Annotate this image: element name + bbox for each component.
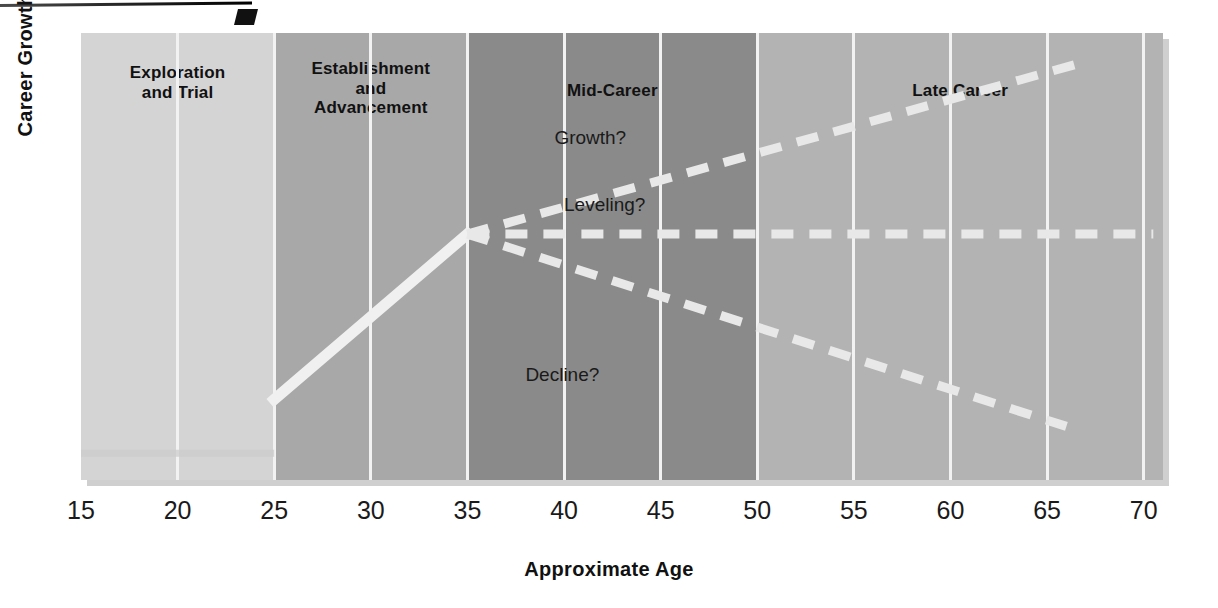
- plot-area: Late CareerMid-CareerEstablishmentandAdv…: [81, 33, 1163, 480]
- annotation-leveling: Leveling?: [564, 194, 645, 216]
- x-tick-15: 15: [67, 496, 95, 525]
- x-tick-60: 60: [937, 496, 965, 525]
- x-tick-45: 45: [647, 496, 675, 525]
- x-tick-20: 20: [164, 496, 192, 525]
- x-tick-40: 40: [550, 496, 578, 525]
- series-decline: [467, 234, 1066, 426]
- series-lines: [81, 33, 1163, 480]
- x-tick-65: 65: [1033, 496, 1061, 525]
- x-tick-70: 70: [1130, 496, 1158, 525]
- x-axis-title: Approximate Age: [0, 558, 1218, 581]
- x-tick-30: 30: [357, 496, 385, 525]
- annotation-decline: Decline?: [525, 364, 599, 386]
- x-tick-50: 50: [743, 496, 771, 525]
- scan-artifact-corner: [234, 9, 258, 25]
- y-axis-title: Career Growth: [14, 0, 37, 175]
- x-tick-55: 55: [840, 496, 868, 525]
- x-tick-35: 35: [454, 496, 482, 525]
- x-axis-ticks: 152025303540455055606570: [81, 496, 1163, 536]
- career-stages-chart: Late CareerMid-CareerEstablishmentandAdv…: [0, 0, 1218, 608]
- annotation-growth: Growth?: [554, 127, 626, 149]
- series-early-growth: [274, 234, 467, 399]
- scan-artifact-line: [0, 2, 252, 7]
- x-tick-25: 25: [260, 496, 288, 525]
